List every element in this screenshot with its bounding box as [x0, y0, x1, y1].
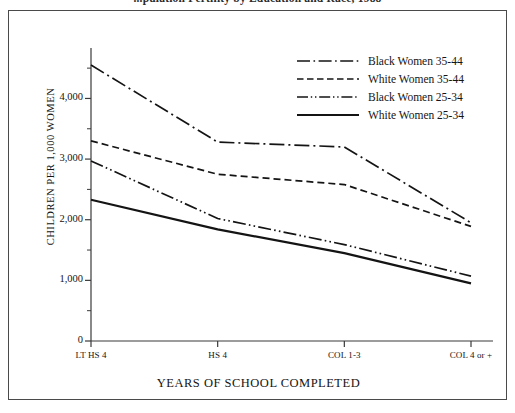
chart-frame: CHILDREN PER 1,000 WOMEN YEARS OF SCHOOL… — [8, 10, 507, 400]
legend-item[interactable]: White Women 25-34 — [297, 107, 515, 123]
legend-label: Black Women 35-44 — [368, 55, 463, 67]
legend-label: White Women 25-34 — [368, 109, 464, 121]
y-tick-label: 0 — [37, 334, 83, 345]
x-axis-title: YEARS OF SCHOOL COMPLETED — [9, 376, 508, 391]
series-line — [91, 200, 471, 284]
legend-label: White Women 35-44 — [368, 73, 464, 85]
y-tick-label: 1,000 — [37, 273, 83, 284]
x-tick-label: LT HS 4 — [46, 350, 136, 360]
figure-title-text: ...pulation Fertility by Education and R… — [133, 0, 381, 4]
x-tick-label: HS 4 — [173, 350, 263, 360]
legend-line-dashed-icon — [297, 74, 359, 84]
x-tick-label: COL 1-3 — [299, 350, 389, 360]
y-axis-title: CHILDREN PER 1,000 WOMEN — [45, 82, 56, 252]
legend-item[interactable]: Black Women 35-44 — [297, 53, 515, 69]
legend-item[interactable]: Black Women 25-34 — [297, 89, 515, 105]
legend-label: Black Women 25-34 — [368, 91, 463, 103]
chart-legend: Black Women 35-44 White Women 35-44 Blac… — [297, 53, 515, 125]
clipped-figure-title: ...pulation Fertility by Education and R… — [0, 0, 515, 9]
figure-root: ...pulation Fertility by Education and R… — [0, 0, 515, 413]
legend-line-solid-icon — [297, 110, 359, 120]
y-tick-label: 2,000 — [37, 213, 83, 224]
series-line — [91, 161, 471, 276]
y-tick-label: 4,000 — [37, 91, 83, 102]
legend-line-dash-dot-dot-icon — [297, 92, 359, 102]
x-tick-label: COL 4 or + — [426, 350, 515, 360]
y-tick-label: 3,000 — [37, 152, 83, 163]
legend-line-dash-dot-icon — [297, 56, 359, 66]
legend-item[interactable]: White Women 35-44 — [297, 71, 515, 87]
